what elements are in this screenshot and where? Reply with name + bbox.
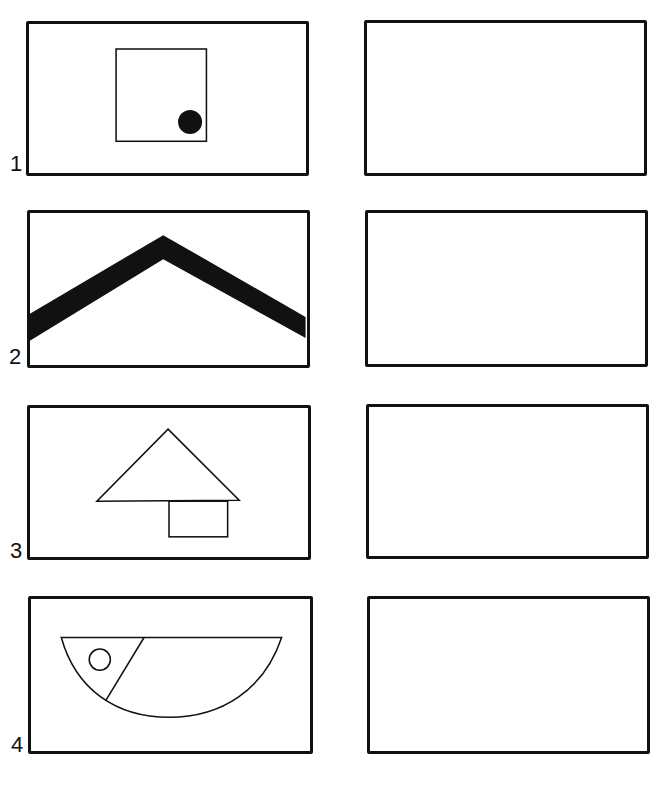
fish-figure [31, 599, 310, 751]
fish-eye-shape [89, 649, 110, 670]
triangle-roof-shape [97, 429, 239, 501]
square-with-dot-figure [29, 24, 306, 173]
row-number-1: 1 [10, 153, 22, 175]
row-number-2: 2 [9, 346, 21, 368]
model-frame-1 [26, 21, 309, 176]
fish-head-line [106, 637, 144, 700]
chevron-shape [29, 235, 305, 341]
row-number-3: 3 [10, 540, 22, 562]
copy-frame-4[interactable] [367, 596, 650, 754]
house-figure [30, 408, 308, 557]
row-number-4: 4 [11, 734, 23, 756]
model-frame-4 [28, 596, 313, 754]
dot-shape [178, 110, 202, 134]
copy-frame-1[interactable] [364, 20, 647, 176]
copy-frame-3[interactable] [366, 404, 649, 559]
chevron-figure [30, 213, 307, 365]
model-frame-3 [27, 405, 311, 560]
model-frame-2 [27, 210, 310, 368]
half-circle-body-shape [61, 637, 281, 717]
small-rectangle-shape [169, 501, 228, 537]
copy-frame-2[interactable] [365, 210, 648, 367]
